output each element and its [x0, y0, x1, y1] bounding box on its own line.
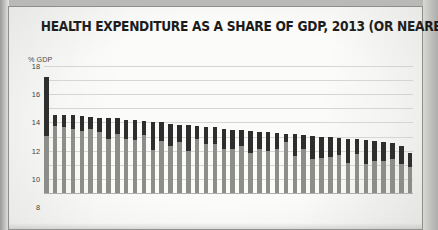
bar-segment-public [168, 146, 173, 193]
bar-segment-public [204, 144, 209, 193]
bar-segment-public [319, 158, 324, 193]
bar-segment-public [213, 144, 218, 193]
bar-column [213, 66, 218, 193]
bar-column [275, 66, 280, 193]
bar-column [284, 66, 289, 193]
plot-area: 181614121086420 [44, 66, 413, 193]
bar-segment-public [372, 161, 377, 193]
bar-column [222, 66, 227, 193]
bar-segment-public [381, 161, 386, 193]
bar-segment-private [213, 127, 218, 143]
bar-column [301, 66, 306, 193]
bar-segment-public [390, 159, 395, 193]
bar-column [372, 66, 377, 193]
bar-column [230, 66, 235, 193]
bar-segment-private [88, 117, 93, 129]
bar-column [151, 66, 156, 193]
bar-column [390, 66, 395, 193]
bar-segment-private [106, 118, 111, 138]
y-axis-tick-label: 16 [32, 90, 40, 99]
bar-segment-public [97, 132, 102, 193]
bar-segment-private [62, 115, 67, 127]
bar-segment-public [80, 131, 85, 193]
bar-series [44, 66, 413, 193]
bar-segment-public [257, 149, 262, 193]
page-right-edge [423, 0, 438, 230]
bar-segment-private [266, 132, 271, 150]
bar-column [142, 66, 147, 193]
bar-segment-public [124, 139, 129, 193]
bar-column [204, 66, 209, 193]
bar-column [257, 66, 262, 193]
bar-column [62, 66, 67, 193]
bar-column [124, 66, 129, 193]
page-title: HEALTH EXPENDITURE AS A SHARE OF GDP, 20… [41, 19, 406, 34]
bar-segment-public [248, 153, 253, 193]
bar-column [266, 66, 271, 193]
bar-column [80, 66, 85, 193]
bar-segment-private [293, 134, 298, 156]
bar-column [168, 66, 173, 193]
y-axis-tick-label: 18 [32, 62, 40, 71]
bar-column [195, 66, 200, 193]
bar-segment-private [222, 129, 227, 149]
bar-segment-public [177, 142, 182, 193]
bar-column [115, 66, 120, 193]
bar-column [310, 66, 315, 193]
bar-segment-private [177, 125, 182, 143]
bar-segment-private [195, 126, 200, 139]
bar-column [346, 66, 351, 193]
bar-segment-private [364, 140, 369, 164]
bar-segment-public [293, 156, 298, 193]
chart-card: HEALTH EXPENDITURE AS A SHARE OF GDP, 20… [8, 6, 423, 230]
bar-segment-public [53, 126, 58, 193]
gridline: 0 [44, 193, 413, 194]
y-axis-tick-label: 14 [32, 118, 40, 127]
bar-segment-public [106, 139, 111, 193]
bar-segment-private [337, 138, 342, 155]
bar-segment-private [239, 130, 244, 146]
bar-column [381, 66, 386, 193]
bar-column [337, 66, 342, 193]
bar-segment-public [310, 159, 315, 193]
bar-segment-public [230, 149, 235, 193]
bar-column [88, 66, 93, 193]
bar-segment-public [346, 163, 351, 193]
bar-segment-public [62, 127, 67, 193]
bar-column [53, 66, 58, 193]
bar-column [44, 66, 49, 193]
bar-column [159, 66, 164, 193]
bar-segment-public [151, 150, 156, 193]
bar-column [186, 66, 191, 193]
bar-segment-private [390, 143, 395, 159]
bar-segment-private [257, 132, 262, 150]
bar-column [71, 66, 76, 193]
bar-segment-public [399, 164, 404, 193]
bar-segment-private [328, 137, 333, 157]
bar-segment-public [44, 136, 49, 193]
bar-segment-private [53, 115, 58, 126]
bar-segment-private [355, 139, 360, 154]
bar-segment-private [248, 131, 253, 153]
chart-page: HEALTH EXPENDITURE AS A SHARE OF GDP, 20… [0, 0, 438, 230]
bar-segment-private [142, 121, 147, 135]
bar-segment-private [151, 122, 156, 150]
bar-column [328, 66, 333, 193]
bar-column [177, 66, 182, 193]
bar-segment-private [381, 142, 386, 160]
bar-segment-private [97, 118, 102, 133]
bar-segment-public [337, 155, 342, 193]
bar-segment-private [346, 139, 351, 163]
bar-segment-private [275, 133, 280, 149]
bar-column [355, 66, 360, 193]
bar-segment-private [133, 120, 138, 140]
bar-segment-public [301, 149, 306, 193]
bar-segment-private [284, 134, 289, 142]
bar-segment-public [133, 140, 138, 193]
bar-segment-private [71, 115, 76, 128]
bar-segment-public [115, 134, 120, 193]
bar-column [319, 66, 324, 193]
page-bottom-fade [9, 223, 423, 230]
bar-segment-private [408, 153, 413, 167]
bar-segment-public [71, 129, 76, 193]
